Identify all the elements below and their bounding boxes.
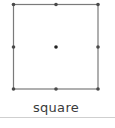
handle-top-left[interactable] — [12, 3, 16, 7]
center-point — [54, 45, 58, 49]
handle-bottom-center[interactable] — [54, 87, 58, 91]
handle-top-right[interactable] — [96, 3, 100, 7]
shape-label: square — [0, 101, 112, 115]
handle-bottom-left[interactable] — [12, 87, 16, 91]
square-shape[interactable] — [0, 0, 115, 100]
handle-middle-left[interactable] — [12, 45, 16, 49]
shape-preview — [0, 0, 115, 100]
handle-middle-right[interactable] — [96, 45, 100, 49]
handle-top-center[interactable] — [54, 3, 58, 7]
divider — [0, 117, 115, 118]
handle-bottom-right[interactable] — [96, 87, 100, 91]
